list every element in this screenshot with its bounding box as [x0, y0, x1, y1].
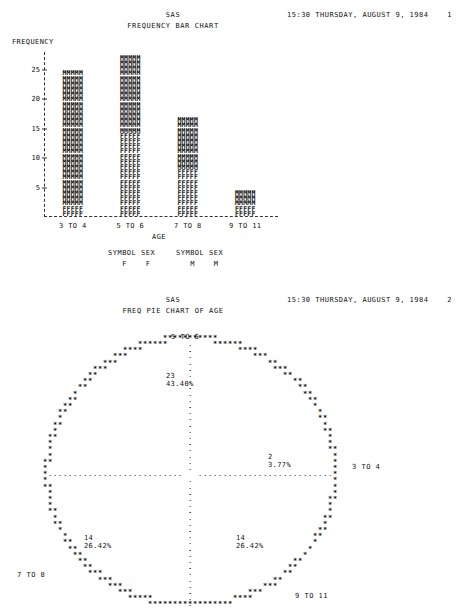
bar-stack: MMMMM MMMMM MMMMM MMMMM MMMMM MMMMM MMMM… — [115, 56, 145, 217]
pie-slice-category-label: 5 TO 6 — [171, 333, 199, 341]
pie-divider-char: . — [118, 470, 122, 478]
pie-divider-char: . — [253, 470, 257, 478]
report-title: FREQUENCY BAR CHART — [0, 22, 466, 30]
pie-divider-char: . — [138, 470, 142, 478]
pie-outline-char: * — [313, 396, 317, 404]
pie-outline-char: * — [158, 340, 162, 348]
pie-divider-char: . — [298, 470, 302, 478]
frequency-bar-chart: FREQUENCY 510152025 MMMMM MMMMM MMMMM MM… — [0, 38, 466, 238]
pie-divider-char: . — [58, 470, 62, 478]
pie-outline-char: * — [83, 563, 87, 571]
bar-plot-area: 510152025 MMMMM MMMMM MMMMM MMMMM MMMMM … — [44, 52, 274, 217]
pie-outline-char: * — [268, 582, 272, 590]
pie-outline-char: * — [43, 483, 47, 491]
pie-divider-char: . — [238, 470, 242, 478]
pie-outline-char: * — [88, 569, 92, 577]
report-page-pie-chart: SAS FREQ PIE CHART OF AGE 15:30 THURSDAY… — [0, 285, 466, 616]
report-page-bar-chart: SAS FREQUENCY BAR CHART 15:30 THURSDAY, … — [0, 0, 466, 285]
pie-divider-char: . — [258, 470, 262, 478]
pie-divider-char: . — [53, 470, 57, 478]
pie-divider-char: . — [223, 470, 227, 478]
bar-segment-female: FFFFF FFFFF FFFFF FFFFF FFFFF FFFFF FFFF… — [115, 134, 145, 217]
bar-segment-female: FFFFF FFFFF FFFFF FFFFF FFFFF FFFFF FFFF… — [173, 170, 203, 217]
pie-slice-value-label: 2 3.77% — [268, 453, 291, 469]
pie-divider-char: . — [248, 470, 252, 478]
bar-chart-legend: SYMBOL SEX F FSYMBOL SEX M M — [0, 248, 466, 274]
pie-outline-char: * — [248, 346, 252, 354]
pie-divider-char: . — [323, 470, 327, 478]
pie-outline-char: * — [73, 551, 77, 559]
pie-divider-char: . — [158, 470, 162, 478]
pie-divider-char: . — [133, 470, 137, 478]
pie-outline-char: * — [193, 600, 197, 608]
pie-outline-char: * — [218, 600, 222, 608]
pie-outline-char: * — [208, 334, 212, 342]
page-timestamp: 15:30 THURSDAY, AUGUST 9, 1984 1 — [287, 11, 452, 19]
pie-ascii-canvas: ****************************************… — [0, 315, 466, 616]
pie-outline-char: * — [253, 588, 257, 596]
pie-outline-char: * — [213, 600, 217, 608]
pie-outline-char: * — [163, 340, 167, 348]
pie-outline-char: * — [58, 526, 62, 534]
pie-outline-char: * — [53, 520, 57, 528]
pie-divider-char: . — [163, 470, 167, 478]
pie-divider-char: . — [318, 470, 322, 478]
pie-outline-char: * — [73, 396, 77, 404]
pie-outline-char: * — [138, 594, 142, 602]
bar-segment-female: FFFFF FFFFF — [58, 207, 88, 217]
pie-divider-char: . — [208, 470, 212, 478]
x-axis-title: AGE — [44, 233, 274, 241]
x-axis-tick-label: 5 TO 6 — [103, 222, 157, 230]
pie-slice-category-label: 9 TO 11 — [295, 592, 328, 600]
pie-outline-char: * — [153, 600, 157, 608]
pie-outline-char: * — [288, 563, 292, 571]
pie-divider-char: . — [313, 470, 317, 478]
pie-outline-char: * — [48, 458, 52, 466]
pie-outline-char: * — [333, 445, 337, 453]
pie-outline-char: * — [213, 334, 217, 342]
legend-entry-f: SYMBOL SEX F F — [108, 248, 155, 270]
pie-divider-char: . — [268, 470, 272, 478]
pie-outline-char: * — [238, 340, 242, 348]
pie-outline-char: * — [63, 408, 67, 416]
pie-outline-char: * — [278, 365, 282, 373]
pie-outline-char: * — [58, 421, 62, 429]
y-axis-title: FREQUENCY — [12, 38, 54, 46]
pie-divider-char: . — [103, 470, 107, 478]
bar-series-layer: MMMMM MMMMM MMMMM MMMMM MMMMM MMMMM MMMM… — [44, 52, 274, 217]
x-axis-tick-label: 3 TO 4 — [46, 222, 100, 230]
pie-divider-char: . — [98, 470, 102, 478]
pie-outline-char: * — [93, 569, 97, 577]
pie-outline-char: * — [308, 545, 312, 553]
pie-outline-char: * — [223, 340, 227, 348]
pie-slice-value-label: 14 26.42% — [84, 534, 112, 550]
pie-outline-char: * — [323, 414, 327, 422]
pie-outline-char: * — [103, 576, 107, 584]
pie-outline-char: * — [208, 600, 212, 608]
pie-outline-char: * — [228, 600, 232, 608]
pie-outline-char: * — [253, 346, 257, 354]
pie-divider-char: . — [288, 470, 292, 478]
pie-divider-char: . — [108, 470, 112, 478]
pie-divider-char: . — [203, 470, 207, 478]
legend-header: SYMBOL SEX — [176, 248, 223, 259]
pie-outline-char: * — [288, 371, 292, 379]
pie-outline-char: * — [133, 594, 137, 602]
pie-outline-char: * — [98, 576, 102, 584]
bar-stack: MMMMM MMMMM MMMMM MMMMM MMMMM MMMMM MMMM… — [58, 71, 88, 217]
pie-divider-char: . — [63, 470, 67, 478]
bar-stack: MMMMM MMMMM MMMMMFFFFF FFFFF — [230, 191, 260, 217]
pie-divider-char: . — [188, 340, 192, 348]
pie-outline-char: * — [108, 582, 112, 590]
pie-outline-char: * — [283, 365, 287, 373]
bar-segment-male: MMMMM MMMMM MMMMM MMMMM MMMMM MMMMM MMMM… — [115, 56, 145, 134]
pie-outline-char: * — [248, 588, 252, 596]
pie-outline-char: * — [158, 600, 162, 608]
pie-outline-char: * — [68, 402, 72, 410]
pie-outline-char: * — [138, 346, 142, 354]
pie-divider-char: . — [213, 470, 217, 478]
pie-outline-char: * — [173, 600, 177, 608]
pie-outline-char: * — [263, 352, 267, 360]
bar-segment-female: FFFFF FFFFF — [230, 207, 260, 217]
pie-outline-char: * — [93, 371, 97, 379]
